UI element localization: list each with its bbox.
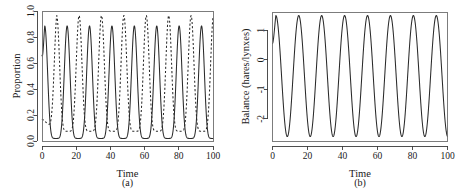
plot-frame bbox=[272, 12, 447, 141]
y-tick-label: -2 bbox=[256, 115, 266, 123]
panel-caption: (b) bbox=[354, 177, 366, 189]
data-curve-log-balance bbox=[272, 16, 447, 137]
y-tick-label: 1.0 bbox=[26, 5, 36, 17]
x-tick-label: 0 bbox=[270, 151, 275, 161]
x-tick-label: 20 bbox=[71, 151, 81, 161]
y-tick-label: 0.0 bbox=[26, 135, 36, 147]
y-axis-title: Balance (hares/lynxes) bbox=[239, 28, 251, 124]
x-tick-label: 80 bbox=[407, 151, 417, 161]
y-tick-label: 0.2 bbox=[26, 109, 36, 121]
y-axis-title: Proportion bbox=[11, 53, 22, 99]
x-tick-label: 100 bbox=[206, 151, 221, 161]
panel-a-plot: 0204060801000.00.20.40.60.81.0TimePropor… bbox=[0, 0, 232, 196]
figure-container: 0204060801000.00.20.40.60.81.0TimePropor… bbox=[0, 0, 463, 196]
y-tick-label: 1 bbox=[256, 28, 266, 33]
x-tick-label: 0 bbox=[40, 151, 45, 161]
y-tick-label: 0.4 bbox=[26, 83, 36, 95]
panel-b-plot: 020406080100-2-101TimeBalance (hares/lyn… bbox=[232, 0, 463, 196]
y-tick-label: 0.6 bbox=[26, 57, 36, 69]
x-tick-label: 40 bbox=[337, 151, 347, 161]
x-tick-label: 60 bbox=[140, 151, 150, 161]
panel-b: 020406080100-2-101TimeBalance (hares/lyn… bbox=[232, 0, 463, 196]
y-tick-label: 0.8 bbox=[26, 31, 36, 43]
x-tick-label: 80 bbox=[174, 151, 184, 161]
x-tick-label: 60 bbox=[372, 151, 382, 161]
y-tick-label: 0 bbox=[256, 57, 266, 62]
x-tick-label: 100 bbox=[440, 151, 455, 161]
y-tick-label: -1 bbox=[256, 85, 266, 93]
x-tick-label: 40 bbox=[106, 151, 116, 161]
panel-caption: (a) bbox=[122, 177, 133, 189]
panel-a: 0204060801000.00.20.40.60.81.0TimePropor… bbox=[0, 0, 232, 196]
x-tick-label: 20 bbox=[302, 151, 312, 161]
